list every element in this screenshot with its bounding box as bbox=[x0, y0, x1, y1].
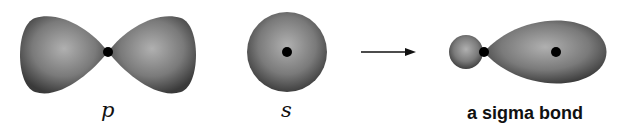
p-label: p bbox=[101, 98, 114, 122]
p-nucleus bbox=[103, 47, 113, 57]
s-nucleus bbox=[282, 47, 292, 57]
s-label: s bbox=[281, 98, 292, 122]
sigma-bond-label: a sigma bond bbox=[467, 103, 583, 124]
sigma-nucleus-left bbox=[479, 47, 489, 57]
sigma-nucleus-right bbox=[551, 47, 561, 57]
p-orbital bbox=[20, 16, 196, 93]
sigma-bond bbox=[449, 20, 607, 83]
right-arrow-icon bbox=[361, 48, 416, 56]
s-orbital bbox=[247, 12, 327, 92]
